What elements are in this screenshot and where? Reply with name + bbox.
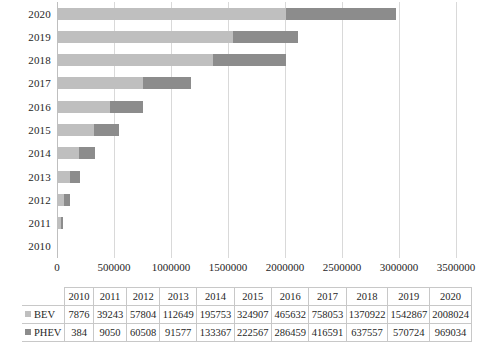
table-row-label: PHEV [22,324,65,342]
table-col-header-2014: 2014 [197,288,234,306]
table-corner-cell [22,288,65,306]
x-axis-tick-3000000: 3000000 [380,262,419,273]
y-axis-label-2015: 2015 [1,125,51,136]
x-axis-tick-1500000: 1500000 [209,262,248,273]
bar-row [57,8,456,20]
table-cell: 57804 [127,306,160,324]
table-cell: 60508 [127,324,160,342]
table-cell: 91577 [160,324,197,342]
bar-segment-phev [94,124,119,136]
table-row: BEV7876392435780411264919575332490746563… [22,306,472,324]
chart-page: 2020201920182017201620152014201320122011… [0,0,492,350]
table-col-header-2012: 2012 [127,288,160,306]
gridline-3500000 [456,2,457,258]
table-cell: 384 [65,324,94,342]
x-axis-tick-3500000: 3500000 [437,262,476,273]
table-row: PHEV384905060508915771333672225672864594… [22,324,472,342]
series-name: BEV [34,310,55,321]
bar-segment-phev [233,31,298,43]
bar-segment-phev [143,77,190,89]
table-cell: 222567 [234,324,271,342]
bar-segment-phev [286,8,396,20]
table-head: 2010201120122013201420152016201720182019… [22,288,472,306]
table-col-header-2013: 2013 [160,288,197,306]
x-axis-tick-500000: 500000 [98,262,131,273]
table-cell: 758053 [309,306,346,324]
legend-swatch-icon [25,311,31,317]
legend-swatch-icon [25,329,31,335]
bar-row [57,147,456,159]
bar-segment-phev [110,101,143,113]
bar-segment-bev [57,54,213,66]
table-cell: 9050 [93,324,126,342]
series-name: PHEV [34,328,61,339]
bar-row [57,217,456,229]
y-axis-label-2020: 2020 [1,9,51,20]
bar-segment-bev [57,101,110,113]
table-cell: 195753 [197,306,234,324]
table-col-header-2019: 2019 [388,288,430,306]
bar-segment-bev [57,147,79,159]
table-cell: 112649 [160,306,197,324]
table-cell: 286459 [271,324,308,342]
bar-row [57,240,456,252]
data-table: 2010201120122013201420152016201720182019… [22,287,472,342]
bar-segment-phev [64,194,71,206]
table-cell: 637557 [346,324,388,342]
y-axis-label-2013: 2013 [1,172,51,183]
bar-chart: 2020201920182017201620152014201320122011… [0,0,492,262]
y-axis-label-2012: 2012 [1,195,51,206]
y-axis-label-2011: 2011 [1,218,51,229]
bar-segment-phev [213,54,286,66]
table-cell: 969034 [430,324,472,342]
y-axis-label-2016: 2016 [1,102,51,113]
table-col-header-2017: 2017 [309,288,346,306]
table-col-header-2016: 2016 [271,288,308,306]
bar-row [57,124,456,136]
table-body: BEV7876392435780411264919575332490746563… [22,306,472,342]
bar-segment-bev [57,194,64,206]
bar-row [57,194,456,206]
table-col-header-2020: 2020 [430,288,472,306]
table-col-header-2015: 2015 [234,288,271,306]
table-cell: 324907 [234,306,271,324]
table-cell: 416591 [309,324,346,342]
table-cell: 7876 [65,306,94,324]
bar-segment-bev [57,8,286,20]
bar-segment-phev [70,171,80,183]
bar-row [57,101,456,113]
bar-row [57,54,456,66]
x-axis-tick-1000000: 1000000 [152,262,191,273]
y-axis-label-2017: 2017 [1,78,51,89]
y-axis-label-2018: 2018 [1,55,51,66]
bar-row [57,171,456,183]
bar-segment-bev [57,77,143,89]
bar-segment-bev [57,124,94,136]
bar-row [57,77,456,89]
bar-row [57,31,456,43]
table-cell: 39243 [93,306,126,324]
table-col-header-2010: 2010 [65,288,94,306]
x-axis-tick-2500000: 2500000 [323,262,362,273]
bar-segment-phev [61,217,62,229]
bar-segment-bev [57,171,70,183]
table-col-header-2011: 2011 [93,288,126,306]
y-axis-label-2019: 2019 [1,32,51,43]
table-header-row: 2010201120122013201420152016201720182019… [22,288,472,306]
y-axis-label-2014: 2014 [1,148,51,159]
table-col-header-2018: 2018 [346,288,388,306]
table-cell: 570724 [388,324,430,342]
table-cell: 1370922 [346,306,388,324]
y-axis-label-2010: 2010 [1,241,51,252]
table-row-label: BEV [22,306,65,324]
bar-segment-phev [79,147,94,159]
x-axis-tick-2000000: 2000000 [266,262,305,273]
table-cell: 133367 [197,324,234,342]
table-cell: 1542867 [388,306,430,324]
plot-area [57,2,456,258]
table-cell: 465632 [271,306,308,324]
x-axis-tick-0: 0 [54,262,60,273]
bar-segment-bev [57,31,233,43]
table-cell: 2008024 [430,306,472,324]
